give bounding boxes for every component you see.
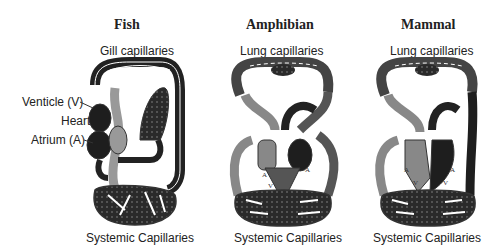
- amphibian-circuit: A V A: [234, 62, 334, 226]
- svg-text:A: A: [305, 166, 310, 174]
- svg-text:V: V: [268, 182, 273, 190]
- svg-text:V: V: [413, 179, 418, 187]
- mammal-circuit: A V V A: [380, 62, 476, 226]
- fish-atrium: [87, 131, 111, 159]
- amphibian-left-atrium: [258, 140, 276, 170]
- svg-text:A: A: [262, 171, 267, 179]
- svg-text:A: A: [450, 166, 455, 174]
- circulation-diagram: A V A A V V A: [0, 0, 495, 252]
- fish-circuit: [87, 62, 180, 225]
- svg-text:V: V: [443, 179, 448, 187]
- svg-text:A: A: [404, 166, 409, 174]
